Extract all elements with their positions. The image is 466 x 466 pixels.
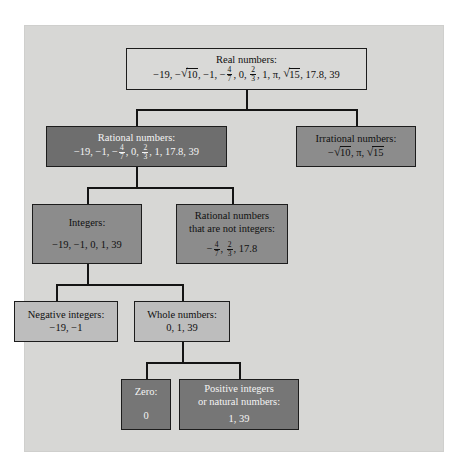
node-irrational-numbers-title: Irrational numbers: — [316, 133, 397, 146]
connector-to-irrational — [356, 109, 358, 126]
node-positive-integers-title-line2: or natural numbers: — [198, 396, 280, 409]
node-rational-not-integers[interactable]: Rational numbers that are not integers: … — [176, 204, 288, 264]
node-rational-numbers-values: −19, −1, −47, 0, 23, 1, 17.8, 39 — [74, 144, 199, 161]
connector-integers-split — [56, 284, 183, 286]
node-real-numbers-values: −19, −√10, −1, −47, 0, 23, 1, π, √15, 17… — [153, 67, 339, 84]
connector-to-rational-not-int — [232, 187, 234, 204]
connector-to-whole-numbers — [182, 284, 184, 301]
node-zero-values: 0 — [143, 410, 148, 423]
node-negative-integers-values: −19, −1 — [50, 322, 83, 335]
node-real-numbers[interactable]: Real numbers: −19, −√10, −1, −47, 0, 23,… — [126, 48, 367, 90]
connector-to-rational — [136, 109, 138, 126]
node-positive-integers-title-line1: Positive integers — [204, 383, 274, 396]
node-negative-integers[interactable]: Negative integers: −19, −1 — [14, 301, 118, 342]
node-zero-title: Zero: — [135, 386, 158, 399]
node-integers-title: Integers: — [69, 217, 106, 230]
node-positive-integers-values: 1, 39 — [229, 413, 250, 426]
node-whole-numbers-title: Whole numbers: — [147, 309, 217, 322]
node-rational-numbers[interactable]: Rational numbers: −19, −1, −47, 0, 23, 1… — [46, 126, 227, 167]
connector-rational-split — [87, 187, 233, 189]
node-whole-numbers-values: 0, 1, 39 — [166, 322, 198, 335]
connector-rational-down — [136, 167, 138, 188]
connector-whole-split — [146, 362, 240, 364]
connector-real-down — [246, 90, 248, 110]
connector-to-integers — [87, 187, 89, 204]
node-rational-numbers-title: Rational numbers: — [98, 132, 175, 145]
diagram-panel: Real numbers: −19, −√10, −1, −47, 0, 23,… — [24, 25, 444, 452]
node-whole-numbers[interactable]: Whole numbers: 0, 1, 39 — [134, 301, 230, 342]
node-irrational-numbers-values: −√10, π, √15 — [328, 146, 384, 160]
node-zero[interactable]: Zero: 0 — [121, 379, 171, 430]
node-irrational-numbers[interactable]: Irrational numbers: −√10, π, √15 −√10, π… — [296, 126, 416, 167]
node-rational-not-integers-values: −47, 23, 17.8 — [207, 241, 257, 258]
connector-to-negative-integers — [56, 284, 58, 301]
node-rational-not-integers-title-line1: Rational numbers — [195, 210, 269, 223]
node-rational-not-integers-title-line2: that are not integers: — [189, 223, 275, 236]
connector-to-zero — [146, 362, 148, 379]
connector-whole-down — [182, 342, 184, 363]
node-negative-integers-title: Negative integers: — [28, 309, 105, 322]
node-real-numbers-title: Real numbers: — [216, 54, 277, 67]
connector-real-split — [136, 109, 357, 111]
connector-to-positive-integers — [239, 362, 241, 379]
node-positive-integers[interactable]: Positive integers or natural numbers: 1,… — [179, 379, 299, 430]
node-integers[interactable]: Integers: −19, −1, 0, 1, 39 — [32, 204, 142, 264]
node-integers-values: −19, −1, 0, 1, 39 — [52, 239, 122, 252]
connector-integers-down — [87, 264, 89, 285]
diagram-page: Real numbers: −19, −√10, −1, −47, 0, 23,… — [0, 0, 466, 466]
